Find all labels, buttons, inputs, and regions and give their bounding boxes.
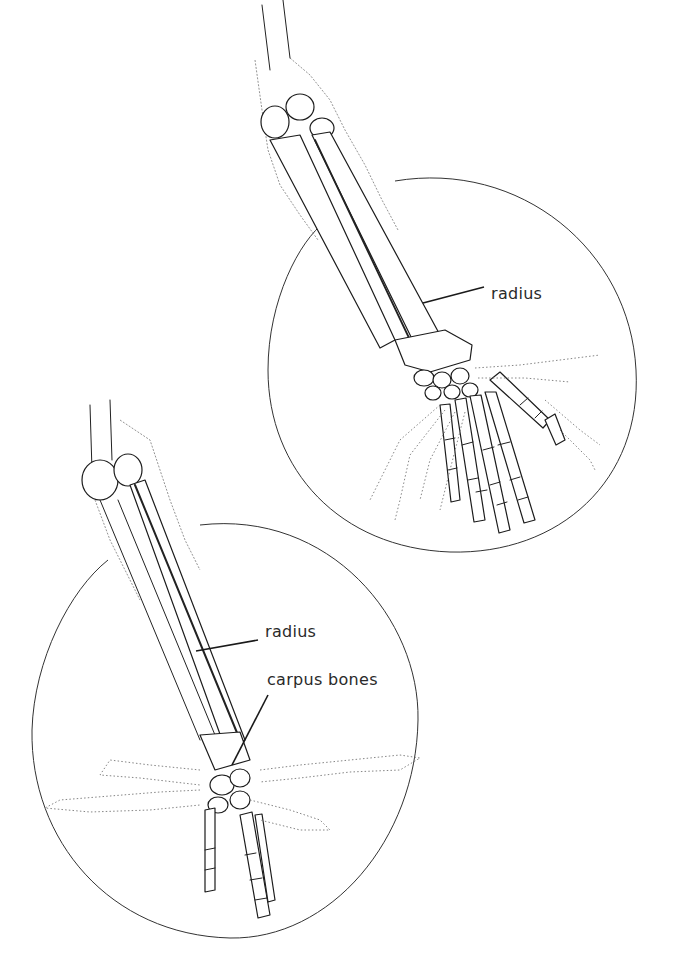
top-radius-leader — [423, 287, 484, 303]
carpus-bones-label: carpus bones — [267, 670, 378, 689]
bottom-fingers — [205, 808, 275, 918]
top-radius-label: radius — [491, 284, 542, 303]
bottom-carpals — [208, 769, 250, 813]
top-carpals — [414, 368, 478, 400]
bottom-ghost-hands — [45, 755, 420, 830]
bottom-panel — [32, 400, 420, 938]
anatomy-illustration — [0, 0, 676, 967]
top-panel — [255, 0, 636, 552]
bottom-radius-label: radius — [265, 622, 316, 641]
